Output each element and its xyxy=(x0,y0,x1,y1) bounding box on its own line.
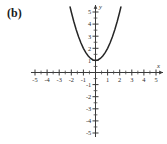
axis-name-group: xy xyxy=(98,3,160,69)
y-tick-label: -4 xyxy=(86,117,92,124)
y-axis-label: y xyxy=(98,3,102,10)
y-tick-label: 2 xyxy=(88,45,91,52)
x-axis-label: x xyxy=(156,62,160,69)
x-tick-label: 2 xyxy=(118,76,121,83)
coordinate-plot: -5-4-3-2-11234554321-1-2-3-4-5 xy xyxy=(0,0,167,144)
x-tick-label: 1 xyxy=(106,76,109,83)
y-tick-label: -1 xyxy=(86,81,91,88)
figure-container: (b) -5-4-3-2-11234554321-1-2-3-4-5 xy xyxy=(0,0,167,144)
y-tick-label: 3 xyxy=(88,33,91,40)
x-axis-arrow xyxy=(159,71,163,75)
axes-group xyxy=(31,5,163,137)
x-tick-label: -2 xyxy=(69,76,74,83)
y-tick-label: -3 xyxy=(86,105,91,112)
y-tick-label: 5 xyxy=(88,8,91,15)
x-tick-label: -5 xyxy=(32,76,37,83)
x-tick-label: -3 xyxy=(57,76,62,83)
y-tick-label: 4 xyxy=(88,20,92,27)
y-tick-label: -2 xyxy=(86,93,91,100)
x-tick-label: 4 xyxy=(142,76,146,83)
y-axis-arrow xyxy=(94,5,98,9)
y-tick-label: -5 xyxy=(86,129,91,136)
x-tick-label: -4 xyxy=(44,76,50,83)
x-tick-label: 5 xyxy=(154,76,157,83)
x-tick-label: 3 xyxy=(130,76,133,83)
